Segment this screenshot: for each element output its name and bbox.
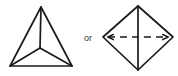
tetrahedron-figure: or (0, 0, 178, 76)
left-tetrahedron-triangle (10, 7, 72, 66)
spoke-to-apex (40, 7, 41, 48)
or-separator-label: or (78, 30, 98, 46)
right-tetrahedron-diamond (103, 6, 173, 70)
